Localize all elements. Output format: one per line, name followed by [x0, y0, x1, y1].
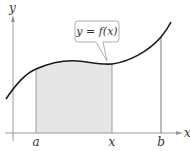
point-label-a: a [32, 135, 39, 149]
x-axis-arrow-icon [176, 131, 183, 135]
point-label-b: b [157, 135, 165, 149]
curve-label: y = f(x) [75, 25, 117, 38]
x-axis-label: x [184, 126, 190, 140]
shaded-area [36, 61, 112, 133]
y-axis-label: y [8, 1, 16, 15]
point-label-x: x [109, 135, 116, 149]
y-axis-arrow-icon [11, 15, 15, 22]
area-diagram: y x y = f(x) a x b [0, 0, 190, 151]
